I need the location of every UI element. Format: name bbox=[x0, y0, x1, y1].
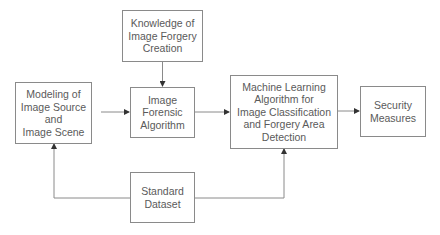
node-label: Machine Learning Algorithm for Image Cla… bbox=[237, 81, 331, 144]
node-machine-learning-algorithm: Machine Learning Algorithm for Image Cla… bbox=[230, 75, 338, 149]
label-line: and Forgery Area bbox=[237, 118, 331, 131]
label-line: Algorithm for bbox=[237, 93, 331, 106]
node-security-measures: Security Measures bbox=[360, 86, 426, 137]
label-line: Creation bbox=[128, 42, 196, 55]
edge-dataset-ml bbox=[195, 149, 284, 198]
label-line: Algorithm bbox=[140, 119, 184, 132]
node-label: Knowledge of Image Forgery Creation bbox=[128, 17, 196, 55]
node-standard-dataset: Standard Dataset bbox=[130, 172, 195, 223]
label-line: Knowledge of bbox=[128, 17, 196, 30]
label-line: and bbox=[21, 113, 86, 126]
label-line: Image Scene bbox=[21, 126, 86, 139]
label-line: Machine Learning bbox=[237, 81, 331, 94]
label-line: Dataset bbox=[141, 198, 184, 211]
label-line: Detection bbox=[237, 131, 331, 144]
label-line: Standard bbox=[141, 185, 184, 198]
label-line: Image Forgery bbox=[128, 30, 196, 43]
label-line: Measures bbox=[370, 112, 416, 125]
node-label: Image Forensic Algorithm bbox=[140, 94, 184, 132]
label-line: Image Classification bbox=[237, 106, 331, 119]
node-image-forensic-algorithm: Image Forensic Algorithm bbox=[130, 87, 195, 138]
edge-dataset-modeling bbox=[54, 144, 130, 198]
label-line: Modeling of bbox=[21, 88, 86, 101]
label-line: Security bbox=[370, 99, 416, 112]
node-knowledge-of-image-forgery-creation: Knowledge of Image Forgery Creation bbox=[122, 10, 203, 62]
node-label: Standard Dataset bbox=[141, 185, 184, 210]
label-line: Image bbox=[140, 94, 184, 107]
node-label: Security Measures bbox=[370, 99, 416, 124]
label-line: Forensic bbox=[140, 106, 184, 119]
node-modeling-of-image-source-and-scene: Modeling of Image Source and Image Scene bbox=[15, 82, 92, 144]
label-line: Image Source bbox=[21, 101, 86, 114]
node-label: Modeling of Image Source and Image Scene bbox=[21, 88, 86, 138]
